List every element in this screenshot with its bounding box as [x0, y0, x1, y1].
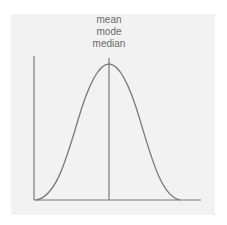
label-mode: mode [79, 26, 139, 38]
label-median: median [79, 38, 139, 50]
bell-curve [36, 64, 180, 200]
label-mean: mean [79, 14, 139, 26]
